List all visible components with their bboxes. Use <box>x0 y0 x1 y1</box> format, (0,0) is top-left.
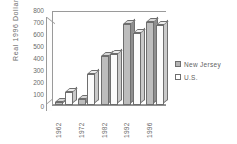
bar-group-1962 <box>55 11 78 105</box>
legend-swatch-icon-new-jersey <box>175 61 181 67</box>
legend-label-new-jersey: New Jersey <box>184 61 221 68</box>
plot-area <box>46 11 166 111</box>
bar-face <box>156 25 164 105</box>
bar-1992-new-jersey <box>123 24 131 105</box>
bar-face <box>101 56 109 105</box>
bar-side <box>118 49 122 103</box>
bar-chart: Real 1996 Dollars 800 700 600 500 400 30… <box>0 0 237 144</box>
y-tick-600: 600 <box>33 32 44 38</box>
bar-side <box>141 28 145 103</box>
bar-face <box>146 22 154 105</box>
y-tick-300: 300 <box>33 68 44 74</box>
bar-1972-us <box>87 74 95 105</box>
legend-item-new-jersey[interactable]: New Jersey <box>175 60 235 68</box>
y-axis-tick-labels: 800 700 600 500 400 300 200 100 0 <box>20 8 44 111</box>
bar-1962-us <box>65 92 73 105</box>
x-tick-1992: 1992 <box>123 122 130 138</box>
y-tick-800: 800 <box>33 8 44 14</box>
bar-group-1972 <box>78 11 101 105</box>
bar-1996-us <box>156 25 164 105</box>
x-tick-1996: 1996 <box>146 122 153 138</box>
y-tick-700: 700 <box>33 20 44 26</box>
bar-group-1982 <box>101 11 124 105</box>
legend-swatch-icon-us <box>175 74 181 80</box>
y-tick-500: 500 <box>33 44 44 50</box>
bar-side <box>164 20 168 103</box>
bar-face <box>87 74 95 105</box>
y-tick-200: 200 <box>33 80 44 86</box>
bar-1996-new-jersey <box>146 22 154 105</box>
bar-1962-new-jersey <box>55 102 63 105</box>
legend-label-us: U.S. <box>184 74 198 81</box>
bar-face <box>123 24 131 105</box>
bar-group-1992 <box>123 11 146 105</box>
bar-face <box>55 102 63 105</box>
y-tick-400: 400 <box>33 56 44 62</box>
x-tick-1962: 1962 <box>55 122 62 138</box>
bar-1982-us <box>110 54 118 105</box>
y-tick-100: 100 <box>33 92 44 98</box>
bar-1982-new-jersey <box>101 56 109 105</box>
bar-side <box>95 69 99 103</box>
y-tick-0: 0 <box>40 104 44 110</box>
bar-1972-new-jersey <box>78 99 86 105</box>
bar-face <box>110 54 118 105</box>
bar-face <box>133 33 141 105</box>
bar-group-1996 <box>146 11 169 105</box>
bar-face <box>78 99 86 105</box>
x-tick-1982: 1982 <box>101 122 108 138</box>
x-tick-1972: 1972 <box>78 122 85 138</box>
x-axis-tick-labels: 19621972198219921996 <box>46 112 170 144</box>
bar-1992-us <box>133 33 141 105</box>
bar-series-layer <box>52 11 166 105</box>
chart-legend: New Jersey U.S. <box>175 60 235 86</box>
legend-item-us[interactable]: U.S. <box>175 73 235 81</box>
plot-baseline <box>52 105 166 106</box>
bar-face <box>65 92 73 105</box>
